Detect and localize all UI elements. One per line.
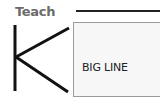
card-label: BIG LINE: [82, 61, 128, 74]
big-line-card: [73, 22, 160, 97]
